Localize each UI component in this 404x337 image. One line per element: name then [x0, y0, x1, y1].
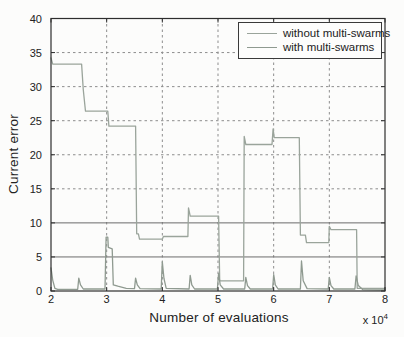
x-axis-title: Number of evaluations — [149, 310, 288, 325]
x-tick-label: 6 — [271, 293, 277, 305]
y-tick-label: 0 — [36, 285, 42, 297]
x-tick-label: 2 — [48, 293, 54, 305]
multiplier-exponent: 4 — [384, 312, 388, 321]
x-tick-label: 3 — [104, 293, 110, 305]
y-tick-label: 20 — [30, 149, 42, 161]
x-axis-multiplier: x 104 — [363, 312, 388, 326]
legend-item-with-multi-swarms: with multi-swarms — [239, 40, 381, 54]
y-tick-label: 30 — [30, 81, 42, 93]
legend-label: with multi-swarms — [283, 41, 374, 53]
legend-line-sample — [247, 47, 277, 48]
y-tick-label: 10 — [30, 217, 42, 229]
x-tick-label: 8 — [382, 293, 388, 305]
y-tick-label: 40 — [30, 13, 42, 25]
x-tick-label: 4 — [159, 293, 165, 305]
y-tick-labels: 0510152025303540 — [0, 0, 45, 337]
y-tick-label: 5 — [36, 251, 42, 263]
y-tick-label: 35 — [30, 47, 42, 59]
legend: without multi-swarms with multi-swarms — [238, 22, 382, 59]
y-tick-label: 25 — [30, 115, 42, 127]
x-tick-label: 5 — [215, 293, 221, 305]
multiplier-base: x 10 — [363, 314, 384, 326]
legend-line-sample — [247, 33, 277, 34]
line-chart-figure: Current error Number of evaluations x 10… — [0, 0, 404, 337]
legend-label: without multi-swarms — [283, 27, 390, 39]
x-tick-label: 7 — [326, 293, 332, 305]
legend-item-without-multi-swarms: without multi-swarms — [239, 26, 381, 40]
y-tick-label: 15 — [30, 183, 42, 195]
